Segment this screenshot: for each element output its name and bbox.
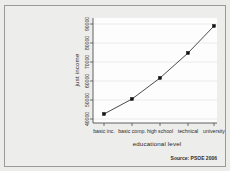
x-tick-label: basic inc. — [93, 128, 115, 134]
x-tick-label: university — [203, 128, 225, 134]
x-tick-marks — [104, 123, 214, 126]
source-note: Source: PSOE 2006 — [171, 155, 218, 161]
y-tick-label: 80000 — [84, 36, 90, 50]
y-tick-label: 90000 — [84, 17, 90, 31]
chart-figure: 40000 50000 60000 70000 80000 90000 just… — [0, 0, 230, 171]
x-tick-labels: basic inc. basic comp. high school techn… — [93, 128, 225, 134]
data-point-marker[interactable] — [158, 76, 161, 79]
data-point-marker[interactable] — [212, 24, 215, 27]
line-chart: 40000 50000 60000 70000 80000 90000 just… — [5, 6, 225, 166]
x-tick-label: basic comp. — [118, 128, 146, 134]
y-tick-marks — [90, 24, 93, 119]
x-tick-label: high school — [147, 128, 173, 134]
plot-area-background — [93, 18, 217, 123]
data-point-marker[interactable] — [130, 97, 133, 100]
y-tick-label: 40000 — [84, 112, 90, 126]
x-tick-label: technical — [178, 128, 198, 134]
y-tick-label: 70000 — [84, 55, 90, 69]
y-tick-label: 60000 — [84, 74, 90, 88]
chart-frame: 40000 50000 60000 70000 80000 90000 just… — [4, 5, 226, 167]
data-point-marker[interactable] — [186, 51, 189, 54]
x-axis-title: educational level — [133, 140, 182, 147]
y-axis-title: just income — [73, 53, 80, 87]
y-tick-label: 50000 — [84, 93, 90, 107]
y-tick-labels: 40000 50000 60000 70000 80000 90000 — [84, 17, 90, 126]
data-point-marker[interactable] — [102, 112, 105, 115]
